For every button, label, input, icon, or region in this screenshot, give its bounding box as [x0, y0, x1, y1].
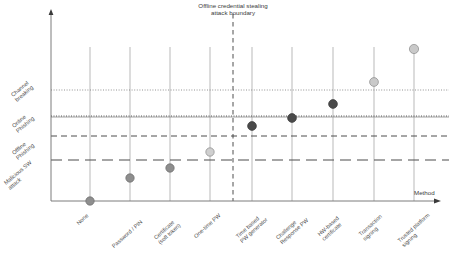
axes: Method	[49, 9, 441, 203]
threshold-label-malicious-sw-attack: Malicious SW attack	[3, 159, 37, 191]
data-point-hw-based-certificate[interactable]	[329, 100, 338, 109]
category-label-transaction-signing: Transaction signing	[357, 213, 387, 242]
data-point-password-pin[interactable]	[126, 174, 134, 182]
threshold-label-online-phishing: Online Phishing	[11, 110, 35, 133]
svg-text:Password / PIN: Password / PIN	[111, 219, 144, 249]
x-axis-arrowhead	[434, 199, 441, 204]
category-label-trusted-platform-signing: Trusted platform signing	[396, 212, 435, 249]
data-point-time-based-pw-generator[interactable]	[248, 122, 257, 131]
category-label-hw-based-certificate: HW-based certificate	[316, 215, 344, 242]
data-point-certificate-soft-token[interactable]	[166, 164, 174, 172]
chart-container: ·· · ·· ··· ·· ·· ·· ·· ·· ·	[0, 0, 449, 259]
svg-text:None: None	[75, 212, 89, 225]
category-label-one-time-pw: One-time PW	[193, 212, 222, 239]
threshold-label-channel-breaking: Channel breaking	[10, 79, 34, 102]
threshold-label-offline-phishing: Offline Phishing	[11, 137, 35, 160]
x-axis-title: Method	[414, 189, 435, 196]
category-label-certificate-soft-token: Certificate (soft token)	[153, 217, 182, 245]
category-label-none: None	[75, 212, 89, 225]
svg-text:One-time PW: One-time PW	[193, 212, 222, 239]
boundary-label-line2: attack boundary	[211, 9, 256, 16]
security-methods-scatter-chart: Offline credential stealing attack bound…	[0, 0, 449, 259]
category-label-password-pin: Password / PIN	[111, 219, 144, 249]
clipped-top-text: ·· · ·· ··· ·· ·· ·· ·· ·· ·	[0, 0, 449, 5]
data-point-trusted-platform-signing[interactable]	[409, 44, 418, 53]
data-point-none[interactable]	[86, 197, 94, 205]
category-label-time-based-pw-generator: Time based PW generator	[235, 212, 269, 244]
data-point-transaction-signing[interactable]	[370, 78, 379, 87]
data-point-one-time-pw[interactable]	[206, 148, 214, 156]
category-label-challenge-response-pw: Challenge Response PW	[275, 212, 310, 246]
data-point-challenge-response-pw[interactable]	[288, 114, 297, 123]
y-axis-arrowhead	[49, 9, 54, 15]
offline-credential-stealing-boundary: Offline credential stealing attack bound…	[198, 2, 268, 201]
threshold-labels: Channel breaking Online Phishing Offline…	[3, 79, 37, 190]
category-labels: None Password / PIN Certificate (soft to…	[75, 212, 435, 249]
